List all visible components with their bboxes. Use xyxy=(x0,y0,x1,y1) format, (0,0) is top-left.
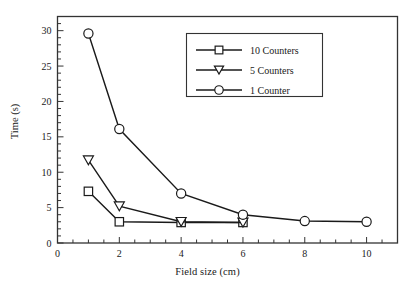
chart-figure: 0246810 051015202530 10 Counters5 Counte… xyxy=(0,0,415,290)
y-axis-label: Time (s) xyxy=(10,104,21,140)
x-tick-label: 8 xyxy=(302,248,307,259)
x-tick-label: 4 xyxy=(179,248,184,259)
legend-label: 5 Counters xyxy=(250,65,294,76)
x-tick-label: 0 xyxy=(55,248,60,259)
legend-marker-circle xyxy=(215,86,223,94)
legend-label: 1 Counter xyxy=(250,85,290,96)
y-tick-label: 0 xyxy=(47,238,52,249)
data-point-marker xyxy=(238,210,247,219)
legend-label: 10 Counters xyxy=(250,45,299,56)
y-tick-label: 15 xyxy=(42,131,52,142)
x-axis-label: Field size (cm) xyxy=(0,266,415,277)
legend-marker-square xyxy=(215,46,223,54)
y-tick-label: 25 xyxy=(42,61,52,72)
data-point-marker xyxy=(177,189,186,198)
line-chart-plot: 0246810 051015202530 10 Counters5 Counte… xyxy=(0,0,415,290)
x-tick-label: 10 xyxy=(362,248,372,259)
data-point-marker xyxy=(115,218,123,226)
x-tick-label: 2 xyxy=(117,248,122,259)
data-point-marker xyxy=(84,29,93,38)
data-point-marker xyxy=(300,216,309,225)
y-tick-label: 30 xyxy=(42,25,52,36)
chart-legend: 10 Counters5 Counters1 Counter xyxy=(187,34,323,97)
x-tick-label: 6 xyxy=(240,248,245,259)
y-tick-label: 20 xyxy=(42,96,52,107)
y-tick-label: 5 xyxy=(47,202,52,213)
data-point-marker xyxy=(84,187,92,195)
y-tick-label: 10 xyxy=(42,167,52,178)
data-point-marker xyxy=(115,124,124,133)
data-point-marker xyxy=(362,217,371,226)
y-axis-label-container: Time (s) xyxy=(0,0,30,243)
